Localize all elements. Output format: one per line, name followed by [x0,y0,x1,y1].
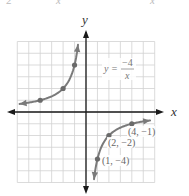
x-axis-label: x [170,104,177,119]
data-point [95,156,100,161]
data-point [38,98,43,103]
y-axis-up-arrow-icon [83,30,89,38]
curve-left-branch [20,45,78,104]
equation-denominator: x [124,70,130,81]
equation-label: y = −4 x [102,57,136,81]
graph-canvas: x y y = −4 x (4, −1) (2, −2) (1, −4) [0,0,189,196]
x-axis-left-arrow-icon [7,109,15,115]
equation-numerator: −4 [122,57,133,68]
x-axis-right-arrow-icon [156,109,164,115]
data-point [72,62,77,67]
y-axis-down-arrow-icon [83,186,89,194]
point-label-1-neg4: (1, −4) [102,155,129,167]
equation-lhs: y = [103,63,118,74]
data-point [61,86,66,91]
y-axis-label: y [80,12,88,27]
point-label-2-neg2: (2, −2) [108,137,135,149]
